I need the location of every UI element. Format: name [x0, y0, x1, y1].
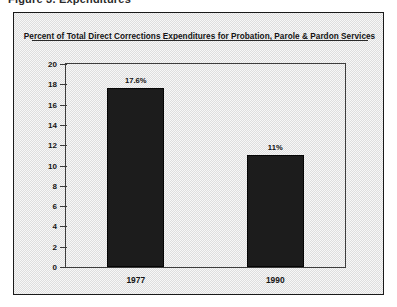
y-tick-label: 18 — [48, 80, 57, 89]
chart-figure: Percent of Total Direct Corrections Expe… — [13, 12, 384, 295]
y-tick-label: 8 — [53, 181, 57, 190]
y-tick-mark — [60, 186, 67, 187]
y-tick-label: 10 — [48, 161, 57, 170]
page-top-cut-text: Figure 3. Expenditures — [0, 0, 397, 8]
y-tick-mark — [60, 267, 67, 268]
y-tick-mark — [60, 84, 67, 85]
y-tick-label: 12 — [48, 141, 57, 150]
y-tick-label: 2 — [53, 242, 57, 251]
y-tick-mark — [60, 166, 67, 167]
plot-area: 20181614121086420 17.6%197711%1990 — [65, 63, 346, 268]
y-tick-label: 16 — [48, 100, 57, 109]
y-tick-mark — [60, 145, 67, 146]
top-cut-label: Figure 3. Expenditures — [8, 0, 131, 5]
y-tick-label: 14 — [48, 120, 57, 129]
y-tick-mark — [60, 206, 67, 207]
y-tick-label: 6 — [53, 202, 57, 211]
title-underline — [32, 40, 368, 41]
bar-value-label: 17.6% — [125, 76, 147, 85]
y-tick-label: 20 — [48, 60, 57, 69]
scanned-page: Figure 3. Expenditures Percent of Total … — [0, 0, 397, 307]
bar: 17.6% — [107, 88, 164, 267]
x-axis-category-label: 1977 — [126, 275, 145, 285]
y-tick-mark — [60, 64, 67, 65]
y-tick-mark — [60, 125, 67, 126]
y-tick-mark — [60, 105, 67, 106]
bar-value-label: 11% — [268, 143, 283, 152]
bar: 11% — [247, 155, 304, 267]
x-axis-category-label: 1990 — [266, 275, 285, 285]
y-tick-mark — [60, 226, 67, 227]
y-tick-mark — [60, 247, 67, 248]
y-tick-label: 0 — [53, 263, 57, 272]
y-tick-label: 4 — [53, 222, 57, 231]
